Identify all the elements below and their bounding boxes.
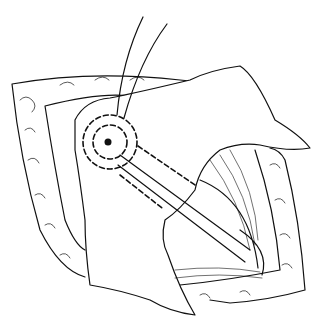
tissue-flap [75,66,310,315]
illustration-svg [0,0,317,325]
surgical-illustration [0,0,317,325]
vessel-opening [105,139,112,146]
